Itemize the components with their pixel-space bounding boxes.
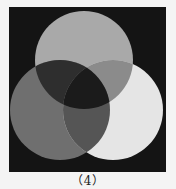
venn-figure: （4） (0, 0, 176, 189)
figure-caption: （4） (0, 174, 176, 188)
venn-diagram (0, 0, 176, 176)
